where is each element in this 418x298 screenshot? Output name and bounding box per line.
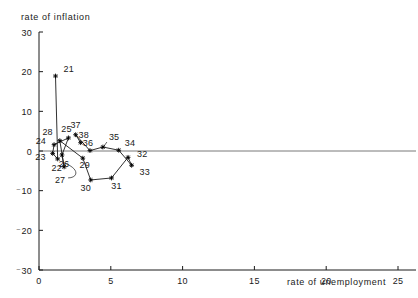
data-point-marker [73,132,78,137]
scatter-chart-figure: rate of inflation rate of unemployment 3… [0,0,418,298]
x-axis-tick-labels: 0510152025 [36,276,403,286]
data-point-label: 31 [111,181,121,191]
data-point-label: 38 [78,130,88,140]
data-point-label: 21 [64,64,74,74]
data-point-marker [52,142,57,147]
data-point-marker [88,148,93,153]
x-tick-label: 10 [177,276,188,286]
data-point-label: 28 [42,127,52,137]
data-point-label: 37 [70,120,80,130]
y-tick-label: 0 [27,147,32,157]
data-point-marker [53,74,58,79]
data-point-label: 24 [36,136,46,146]
x-tick-label: 20 [321,276,332,286]
data-point-label: 34 [125,138,135,148]
data-point-label: 26 [59,159,69,169]
y-tick-label: ⁻20 [16,226,32,236]
plot-area: 3020100⁻10⁻20⁻30 0510152025 212223242526… [0,0,418,298]
y-tick-label: 20 [21,67,32,77]
x-tick-label: 5 [108,276,113,286]
data-point-marker [101,145,106,150]
data-point-label: 27 [55,175,65,185]
data-point-marker [50,151,55,156]
y-tick-label: 10 [21,107,32,117]
y-tick-label: 30 [21,28,32,38]
x-tick-label: 0 [36,276,41,286]
y-tick-label: ⁻10 [16,186,32,196]
data-point-label: 32 [137,149,147,159]
data-point-marker [116,148,121,153]
data-point-label: 30 [80,183,90,193]
data-point-labels: 212223242526272829303132333435363738 [35,64,150,193]
x-tick-label: 25 [393,276,404,286]
data-point-marker [57,138,62,143]
data-point-marker [66,136,71,141]
data-point-label: 23 [35,152,45,162]
y-axis-tick-labels: 3020100⁻10⁻20⁻30 [16,28,32,276]
x-tick-label: 15 [249,276,260,286]
data-point-marker [60,153,65,158]
data-point-label: 29 [80,160,90,170]
data-point-marker [126,155,131,160]
data-point-label: 33 [140,167,150,177]
data-point-marker [109,176,114,181]
data-point-marker [88,178,93,183]
data-point-label: 35 [109,132,119,142]
data-point-marker [129,163,134,168]
y-tick-label: ⁻30 [16,266,32,276]
